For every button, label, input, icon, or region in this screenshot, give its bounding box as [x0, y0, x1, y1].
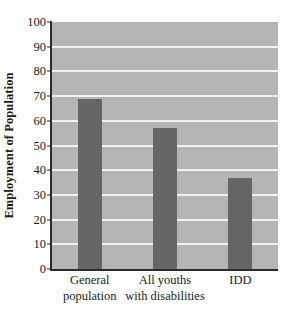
- y-axis-tick-label: 40: [34, 164, 47, 177]
- y-axis-tick-label: 50: [34, 139, 47, 152]
- x-axis-category-label: IDD: [229, 272, 251, 288]
- y-axis-tick-label: 60: [34, 115, 47, 128]
- x-axis-line: [50, 269, 278, 271]
- y-axis-tick-label: 70: [34, 90, 47, 103]
- x-axis-category-label: All youths with disabilities: [125, 272, 205, 304]
- x-axis-category-labels: General populationAll youths with disabi…: [52, 272, 278, 311]
- gridline: [52, 46, 278, 48]
- y-axis-tick-label: 20: [34, 213, 47, 226]
- bar-chart-figure: Employment of Population 010203040506070…: [0, 0, 293, 311]
- gridline: [52, 95, 278, 97]
- bar: [153, 128, 177, 269]
- y-axis-tick-labels: 0102030405060708090100: [14, 22, 46, 269]
- y-axis-tick-label: 30: [34, 189, 47, 202]
- y-axis-tick-label: 80: [34, 65, 47, 78]
- bar: [228, 178, 252, 269]
- plot-area: [52, 22, 278, 269]
- y-axis-tick-label: 10: [34, 238, 47, 251]
- x-axis-category-label: General population: [63, 272, 116, 304]
- y-axis-tick-label: 90: [34, 40, 47, 53]
- gridline: [52, 70, 278, 72]
- bar: [78, 99, 102, 269]
- y-axis-tick-label: 100: [27, 16, 46, 29]
